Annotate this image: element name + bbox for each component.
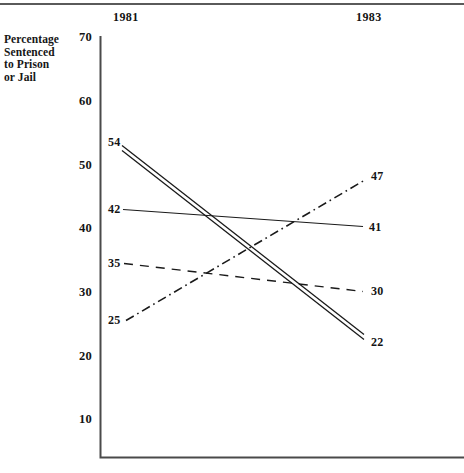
datalabel-end-22: 22: [371, 335, 383, 350]
series-dash-dot-line: [126, 181, 364, 321]
datalabel-start-35: 35: [108, 256, 120, 271]
datalabel-end-47: 47: [371, 169, 383, 184]
datalabel-start-25: 25: [108, 313, 120, 328]
plot-area: [0, 0, 464, 473]
series-solid-line: [123, 210, 363, 227]
datalabel-start-54: 54: [108, 135, 120, 150]
series-double-line-lower: [122, 151, 364, 340]
datalabel-end-30: 30: [371, 284, 383, 299]
datalabel-end-41: 41: [369, 220, 381, 235]
series-double-line: [122, 146, 364, 340]
chart-figure: Percentage Sentenced to Prison or Jail 1…: [0, 0, 464, 473]
datalabel-start-42: 42: [108, 202, 120, 217]
series-double-line-upper: [122, 146, 364, 335]
axis-frame: [101, 36, 464, 458]
series-dashed-line: [124, 264, 363, 292]
